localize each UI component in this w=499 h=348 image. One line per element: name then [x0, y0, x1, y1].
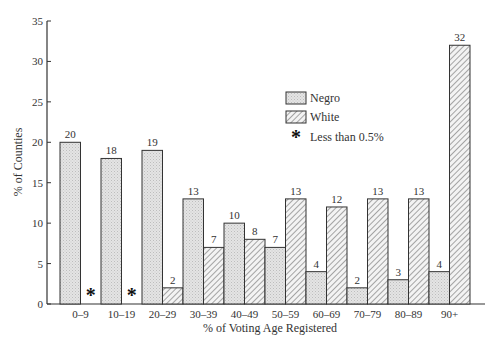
y-tick-label: 25	[32, 96, 44, 108]
bar-negro	[101, 158, 122, 304]
bar-white	[245, 239, 266, 304]
bar-negro	[60, 142, 81, 304]
bar-value-label: 19	[147, 136, 159, 148]
y-tick-label: 0	[38, 298, 44, 310]
y-tick-label: 20	[32, 136, 44, 148]
x-tick-label: 80–89	[395, 308, 423, 320]
bar-value-label: 10	[229, 209, 241, 221]
bar-value-label: 13	[372, 185, 384, 197]
x-tick-label: 10–19	[108, 308, 136, 320]
bar-negro	[265, 247, 286, 304]
bar-value-label: 18	[106, 144, 118, 156]
asterisk-icon: *	[127, 284, 137, 306]
bar-value-label: 13	[413, 185, 425, 197]
x-tick-label: 20–29	[149, 308, 177, 320]
bar-white	[327, 207, 348, 304]
bar-negro	[429, 272, 450, 304]
bar-value-label: 13	[188, 185, 200, 197]
bar-value-label: 8	[252, 225, 258, 237]
x-tick-label: 50–59	[272, 308, 300, 320]
bar-value-label: 4	[437, 258, 443, 270]
bar-value-label: 2	[170, 274, 176, 286]
legend-label-white: White	[310, 110, 339, 124]
y-tick-label: 10	[32, 217, 44, 229]
x-tick-label: 40–49	[231, 308, 259, 320]
y-tick-label: 15	[32, 177, 44, 189]
bar-negro	[306, 272, 327, 304]
y-tick-label: 30	[32, 55, 44, 67]
bar-negro	[224, 223, 245, 304]
bar-value-label: 32	[454, 31, 465, 43]
x-tick-label: 30–39	[190, 308, 218, 320]
bar-white	[409, 199, 430, 304]
bars	[60, 45, 470, 304]
legend: NegroWhite*Less than 0.5%	[286, 91, 384, 148]
bar-white	[163, 288, 184, 304]
x-tick-label: 0–9	[72, 308, 89, 320]
x-tick-label: 70–79	[354, 308, 382, 320]
bar-negro	[183, 199, 204, 304]
bar-white	[286, 199, 307, 304]
y-tick-label: 5	[38, 258, 44, 270]
legend-label-less-than: Less than 0.5%	[310, 130, 384, 144]
bar-white	[204, 247, 225, 304]
bar-negro	[388, 280, 409, 304]
bar-value-label: 13	[290, 185, 302, 197]
bar-value-label: 2	[355, 274, 361, 286]
bar-negro	[347, 288, 368, 304]
x-tick-label: 60–69	[313, 308, 341, 320]
bar-chart: 051015202530350–910–1920–2930–3940–4950–…	[0, 0, 499, 348]
bar-value-label: 7	[273, 233, 279, 245]
x-axis-title: % of Voting Age Registered	[203, 321, 337, 335]
bar-value-label: 12	[331, 193, 342, 205]
bar-white	[368, 199, 389, 304]
legend-swatch-negro	[286, 92, 306, 104]
x-tick-label: 90+	[441, 308, 458, 320]
bar-value-label: 20	[65, 128, 77, 140]
bar-white	[450, 45, 471, 304]
bar-value-label: 3	[396, 266, 402, 278]
asterisk-icon: *	[291, 126, 301, 148]
bar-negro	[142, 150, 163, 304]
legend-label-negro: Negro	[310, 91, 340, 105]
legend-swatch-white	[286, 111, 306, 123]
bar-value-label: 4	[314, 258, 320, 270]
bar-value-label: 7	[211, 233, 217, 245]
y-tick-label: 35	[32, 15, 44, 27]
y-axis-title: % of Counties	[11, 127, 25, 196]
asterisk-icon: *	[86, 284, 96, 306]
